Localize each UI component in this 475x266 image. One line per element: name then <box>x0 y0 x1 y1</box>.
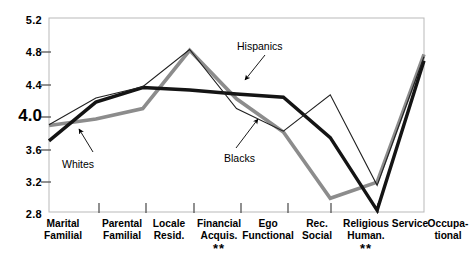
x-category-8-line2: tional <box>420 230 475 242</box>
x-category-8-line1: Occupa- <box>420 218 475 230</box>
y-label-4.0: 4.0 <box>0 106 42 126</box>
y-label-3.2: 3.2 <box>4 176 42 188</box>
annotation-blacks: Blacks <box>224 152 255 164</box>
annotation-whites: Whites <box>62 158 94 170</box>
y-label-3.6: 3.6 <box>4 144 42 156</box>
x-category-6-line2: Human. <box>330 230 402 242</box>
y-label-5.2: 5.2 <box>4 14 42 26</box>
line-chart: 5.2 4.8 4.4 4.0 3.6 3.2 2.8 Marital Fami… <box>0 0 475 266</box>
x-category-8: Occupa- tional <box>420 218 475 241</box>
significance-marker-financial-acquis: ** <box>184 241 254 256</box>
annotation-hispanics: Hispanics <box>237 40 283 52</box>
y-label-4.4: 4.4 <box>4 79 42 91</box>
y-label-4.8: 4.8 <box>4 46 42 58</box>
significance-marker-religious-human: ** <box>330 241 402 256</box>
